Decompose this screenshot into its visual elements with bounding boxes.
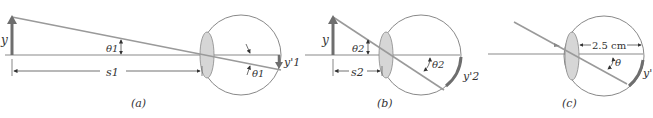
angle-label-eye: θ (615, 57, 621, 68)
object-label: y (321, 33, 329, 47)
angle-label-eye: θ2 (432, 59, 444, 70)
angle-label-eye: θ1 (252, 68, 264, 79)
image-arc (629, 60, 643, 86)
object-arrow-icon (7, 15, 17, 24)
image-label: y'1 (283, 56, 300, 69)
angle-label: θ2 (352, 43, 364, 54)
caption: (c) (562, 97, 577, 110)
angle-label: θ1 (106, 43, 118, 54)
caption: (a) (131, 97, 146, 110)
image-arrow-icon (275, 62, 283, 69)
image-arc (446, 57, 461, 86)
panel-a: y θ1 θ1 s1 y'1 (a) (0, 15, 300, 110)
object-label: y (0, 33, 8, 47)
angle-marker-eye (608, 58, 613, 69)
distance-label: s1 (106, 66, 119, 79)
caption: (b) (377, 97, 393, 110)
distance-label: s2 (351, 66, 364, 79)
angle-marker-eye (424, 58, 430, 71)
panel-b: y θ2 θ2 s2 y'2 (b) (305, 15, 479, 110)
angle-marker-eye (246, 44, 250, 53)
eye-angular-size-diagram: y θ1 θ1 s1 y'1 (a) y θ2 θ2 s2 y'2 (b) (0, 0, 653, 118)
image-label: y' (642, 67, 652, 80)
eye-length-label: 2.5 cm (592, 40, 627, 51)
image-label: y'2 (462, 70, 479, 83)
panel-c: 2.5 cm θ y' (c) (488, 16, 652, 110)
angle-marker-eye (247, 66, 250, 75)
light-ray (12, 17, 281, 70)
